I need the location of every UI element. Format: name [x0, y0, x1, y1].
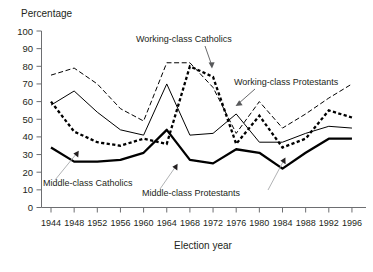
line-chart: Percentage 100 90 80 70 60 50 40	[0, 0, 373, 272]
x-tick-1956: 1956	[110, 218, 130, 228]
y-tick-90: 90	[22, 43, 33, 54]
leader-working-class-protestants	[238, 89, 255, 104]
x-axis-ticks	[51, 208, 352, 213]
x-tick-1972: 1972	[203, 218, 223, 228]
x-axis-tick-labels: 1944 1948 1952 1956 1960 1964 1968 1972 …	[41, 218, 362, 228]
x-tick-1952: 1952	[87, 218, 107, 228]
x-tick-1968: 1968	[180, 218, 200, 228]
annotation-working-class-protestants: Working-class Protestants	[234, 77, 339, 87]
y-tick-60: 60	[22, 96, 33, 107]
x-tick-1992: 1992	[319, 218, 339, 228]
arrowhead-middle-class-protestants-right	[280, 158, 285, 165]
y-tick-20: 20	[22, 167, 33, 178]
x-tick-1976: 1976	[226, 218, 246, 228]
y-tick-80: 80	[22, 61, 33, 72]
y-tick-30: 30	[22, 149, 33, 160]
y-tick-70: 70	[22, 78, 33, 89]
series-line-middle-class-catholics	[51, 84, 352, 142]
arrowhead-working-class-catholics	[209, 62, 215, 68]
x-tick-1960: 1960	[134, 218, 154, 228]
y-tick-0: 0	[28, 202, 33, 213]
x-tick-1984: 1984	[272, 218, 292, 228]
y-tick-100: 100	[17, 26, 33, 37]
annotation-middle-class-catholics: Middle-class Catholics	[43, 178, 133, 188]
x-tick-1980: 1980	[249, 218, 269, 228]
x-tick-1944: 1944	[41, 218, 61, 228]
y-tick-50: 50	[22, 114, 33, 125]
y-axis-tick-labels: 100 90 80 70 60 50 40 30 20 10 0	[17, 26, 33, 214]
y-axis-ticks	[37, 31, 42, 208]
x-tick-1996: 1996	[342, 218, 362, 228]
series-line-working-class-catholics	[51, 63, 352, 134]
annotation-working-class-catholics: Working-class Catholics	[136, 34, 232, 44]
x-tick-1988: 1988	[296, 218, 316, 228]
y-tick-40: 40	[22, 131, 33, 142]
y-axis-title: Percentage	[21, 8, 73, 19]
x-axis-title: Election year	[174, 240, 232, 251]
x-tick-1948: 1948	[64, 218, 84, 228]
x-tick-1964: 1964	[157, 218, 177, 228]
leader-middle-class-protestants	[160, 166, 176, 189]
annotation-middle-class-protestants: Middle-class Protestants	[142, 188, 241, 198]
y-tick-10: 10	[22, 184, 33, 195]
